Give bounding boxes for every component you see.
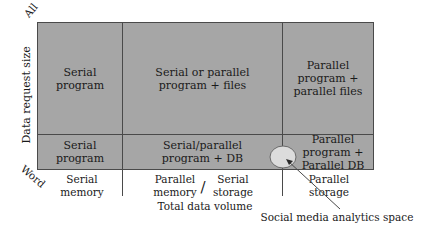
- cell-bottom-left-text: Serial program: [42, 139, 118, 165]
- cell-top-right-text: Parallel program + parallel files: [289, 59, 367, 98]
- x-tick-parallel-storage: Parallel storage: [304, 173, 354, 199]
- x-tick-serial-memory: Serial memory: [54, 173, 110, 199]
- cell-top-middle: Serial or parallel program + files: [123, 23, 282, 134]
- x-tick-serial-storage-line1: Serial: [208, 173, 258, 186]
- cell-top-left: Serial program: [38, 23, 122, 134]
- x-tick-parallel-storage-line2: storage: [304, 186, 354, 199]
- cell-top-middle-text: Serial or parallel program + files: [137, 66, 268, 92]
- cell-bottom-middle: Serial/parallel program + DB: [123, 135, 282, 169]
- y-axis-label: Data request size: [20, 48, 33, 144]
- cell-bottom-right-text: Parallel program + Parallel DB: [293, 133, 373, 172]
- x-tick-parallel-memory: Parallel memory: [150, 173, 200, 199]
- x-tick-parallel-memory-line2: memory: [150, 186, 200, 199]
- x-tick-serial-memory-line1: Serial: [54, 173, 110, 186]
- annotation-label: Social media analytics space: [258, 211, 416, 224]
- cell-bottom-left: Serial program: [38, 135, 122, 169]
- y-axis-top-label: All: [20, 0, 42, 22]
- x-tick-parallel-storage-line1: Parallel: [304, 173, 354, 186]
- cell-top-left-text: Serial program: [42, 66, 118, 92]
- x-axis-label: Total data volume: [150, 200, 260, 213]
- x-tick-serial-storage-line2: storage: [208, 186, 258, 199]
- cell-bottom-right: Parallel program + Parallel DB: [291, 135, 375, 169]
- x-tick-line-2: [282, 170, 283, 196]
- cell-bottom-middle-text: Serial/parallel program + DB: [145, 139, 260, 165]
- x-tick-line-1: [122, 170, 123, 196]
- x-tick-serial-memory-line2: memory: [54, 186, 110, 199]
- x-tick-serial-storage: Serial storage: [208, 173, 258, 199]
- cell-top-right: Parallel program + parallel files: [283, 23, 373, 134]
- x-tick-parallel-memory-line1: Parallel: [150, 173, 200, 186]
- data-volume-request-size-diagram: Serial program Serial or parallel progra…: [0, 0, 422, 236]
